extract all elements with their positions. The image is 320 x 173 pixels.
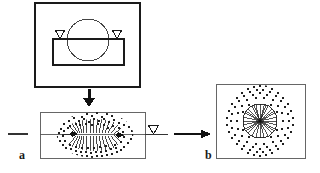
subfigure-label-a: a [19, 149, 25, 161]
ingot-center-point [258, 119, 261, 122]
top-panel [35, 3, 140, 87]
middle-panel-frame [40, 112, 145, 158]
figure-root: a b [0, 0, 320, 173]
figure-canvas [0, 0, 320, 173]
subfigure-label-b: b [205, 149, 212, 161]
middle-panel [40, 112, 145, 158]
right-panel [216, 84, 305, 158]
